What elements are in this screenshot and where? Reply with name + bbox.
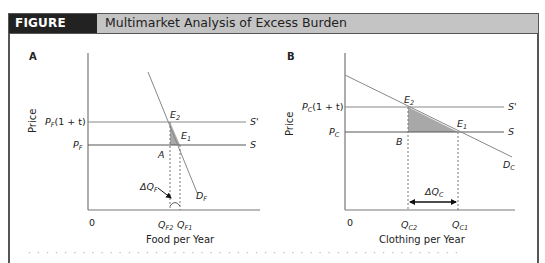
demand-line-a [148,72,198,195]
delta-qf-brace [170,203,180,207]
tick-qc1: QC1 [452,219,468,232]
label-e1-b: E1 [457,118,467,131]
caption-cutoff: · · · · · · · · · · · · · · · · · · · · … [28,249,460,258]
label-demand-a: DF [196,190,207,203]
tick-qc2: QC2 [401,219,417,232]
delta-qf-arrow [158,188,171,198]
excess-burden-triangle-b [408,107,458,132]
label-b: B [396,136,403,147]
label-a: A [157,149,165,160]
label-delta-qc: ΔQC [424,186,444,199]
label-demand-b: DC [503,159,515,172]
x-axis-title-a: Food per Year [146,234,215,245]
label-s-a: S [250,139,256,150]
label-s-prime-b: S' [508,101,517,112]
panel-a-title: A [29,51,37,62]
label-delta-qf: ΔQF [139,181,158,194]
panel-a: A Price PF(1 + t) PF S' S E2 E1 A DF ΔQF… [27,51,260,245]
tick-pf-tax: PF(1 + t) [45,116,86,129]
tick-qf1: QF1 [177,219,192,232]
label-e1-a: E1 [181,130,191,143]
y-axis-title-b: Price [284,112,295,136]
x-axis-title-b: Clothing per Year [379,234,466,245]
origin-b: 0 [347,217,353,228]
panel-b: B Price PC(1 + t) PC S' S E2 E1 B DC ΔQC… [284,51,517,245]
label-s-prime-a: S' [250,116,259,127]
tick-pf: PF [73,139,83,152]
label-e2-a: E2 [170,109,180,122]
panel-b-title: B [287,51,295,62]
tick-pc-tax: PC(1 + t) [302,101,343,114]
label-s-b: S [508,126,514,137]
tick-pc: PC [329,126,340,139]
origin-a: 0 [89,217,95,228]
demand-line-b [345,75,512,157]
y-axis-title-a: Price [27,109,38,133]
excess-burden-triangle-a [170,122,180,145]
tick-qf2: QF2 [158,219,173,232]
